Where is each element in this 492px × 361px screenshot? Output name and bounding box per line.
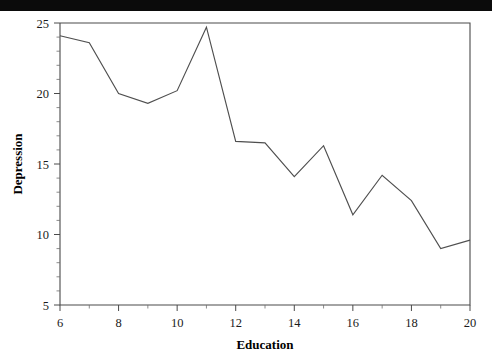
line-chart: 510152025 68101214161820 Education Depre… [0, 11, 492, 361]
x-tick-label: 14 [288, 316, 301, 330]
y-tick-label: 20 [37, 87, 50, 101]
x-tick-label: 6 [57, 316, 63, 330]
x-tick-label: 16 [347, 316, 360, 330]
x-tick-label: 8 [115, 316, 121, 330]
x-tick-label: 10 [171, 316, 184, 330]
x-tick-label: 12 [229, 316, 242, 330]
x-tick-label: 18 [405, 316, 418, 330]
x-axis-title: Education [236, 337, 294, 352]
y-axis-tick-labels: 510152025 [37, 17, 50, 313]
depression-series-line [60, 27, 470, 248]
x-tick-label: 20 [464, 316, 477, 330]
title-bar [0, 0, 492, 11]
x-axis-tick-labels: 68101214161820 [57, 316, 476, 330]
plot-frame [60, 23, 470, 305]
y-tick-label: 5 [43, 299, 49, 313]
y-axis-title: Depression [10, 133, 25, 195]
chart-figure: 510152025 68101214161820 Education Depre… [0, 11, 492, 361]
y-tick-label: 25 [37, 17, 50, 31]
y-tick-label: 10 [37, 228, 50, 242]
y-tick-label: 15 [37, 158, 50, 172]
